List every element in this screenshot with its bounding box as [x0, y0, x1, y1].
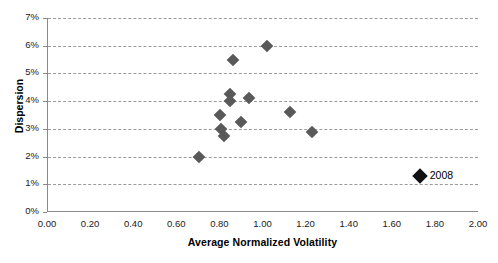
y-tick-mark — [43, 157, 47, 158]
gridline-y-2% — [48, 157, 478, 158]
x-tick-label: 0.80 — [199, 218, 239, 229]
y-tick-mark — [43, 73, 47, 74]
x-tick-label: 1.60 — [372, 218, 412, 229]
x-tick-label: 0.20 — [70, 218, 110, 229]
gridline-y-7% — [48, 18, 478, 19]
y-tick-label: 7% — [0, 11, 39, 22]
x-tick-label: 1.40 — [329, 218, 369, 229]
data-point — [243, 92, 256, 105]
y-tick-mark — [43, 101, 47, 102]
gridline-y-5% — [48, 73, 478, 74]
y-tick-mark — [43, 212, 47, 213]
y-tick-label: 1% — [0, 177, 39, 188]
data-point — [412, 168, 428, 184]
x-axis-title: Average Normalized Volatility — [47, 236, 478, 248]
y-tick-label: 6% — [0, 39, 39, 50]
data-point — [260, 39, 273, 52]
data-point — [192, 150, 205, 163]
x-tick-label: 1.20 — [286, 218, 326, 229]
data-point — [234, 116, 247, 129]
data-point — [214, 109, 227, 122]
plot-area: 2008 — [47, 18, 478, 212]
gridline-y-1% — [48, 184, 478, 185]
x-tick-label: 0.40 — [113, 218, 153, 229]
data-point — [306, 125, 319, 138]
scatter-chart: 0%1%2%3%4%5%6%7% 2008 0.000.200.400.600.… — [0, 0, 498, 263]
y-tick-mark — [43, 46, 47, 47]
gridline-y-3% — [48, 129, 478, 130]
data-point-annotation: 2008 — [430, 169, 453, 181]
data-point — [227, 53, 240, 66]
y-axis-title: Dispersion — [13, 51, 25, 161]
x-tick-label: 0.60 — [156, 218, 196, 229]
x-tick-label: 1.00 — [243, 218, 283, 229]
data-point — [284, 106, 297, 119]
y-tick-mark — [43, 184, 47, 185]
gridline-y-4% — [48, 101, 478, 102]
x-tick-label: 1.80 — [415, 218, 455, 229]
y-tick-mark — [43, 18, 47, 19]
y-tick-mark — [43, 129, 47, 130]
x-tick-label: 0.00 — [27, 218, 67, 229]
x-tick-label: 2.00 — [458, 218, 498, 229]
